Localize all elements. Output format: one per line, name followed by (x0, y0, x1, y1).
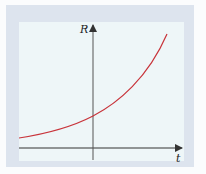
y-axis-label: R (79, 23, 88, 36)
graph: R t (0, 0, 206, 174)
x-axis-label: t (176, 152, 181, 165)
